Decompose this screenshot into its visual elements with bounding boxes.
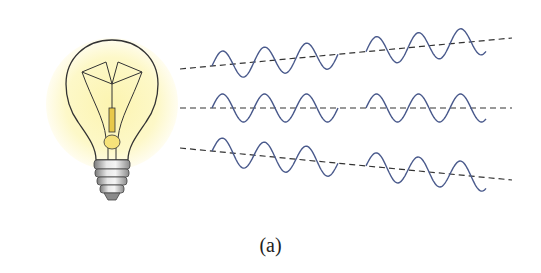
ray-top-wave-1 (212, 43, 338, 77)
ray-bottom-line (180, 148, 512, 180)
filament-bead (104, 135, 120, 149)
bulb-base-icon (94, 160, 130, 200)
ray-bottom-wave-1 (212, 138, 338, 176)
filament-core (109, 108, 115, 132)
light-rays (180, 29, 512, 191)
ray-top-wave-2 (366, 29, 486, 63)
ray-bottom-wave-2 (366, 153, 486, 191)
ray-top-line (180, 38, 512, 69)
figure-caption: (a) (0, 234, 541, 257)
light-bulb-waves-figure (0, 0, 541, 273)
